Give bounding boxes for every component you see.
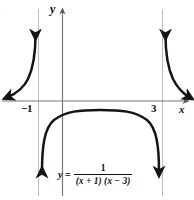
equation-denominator: (x + 1) (x − 3)	[74, 175, 133, 186]
curve-right-branch	[166, 35, 190, 97]
equation-numerator: 1	[95, 163, 112, 174]
curve-left-branch	[8, 35, 36, 97]
x-tick-label-neg1: −1	[21, 103, 32, 114]
rational-function-graph-figure: · y x −1 3 y = 1 (x +	[0, 0, 194, 200]
equation-relation: =	[65, 169, 71, 180]
x-axis-label: x	[179, 104, 185, 115]
y-axis-label: y	[50, 3, 55, 15]
equation-label: y = 1 (x + 1) (x − 3)	[58, 163, 132, 186]
x-tick-label-3: 3	[151, 103, 157, 114]
equation-fraction: 1 (x + 1) (x − 3)	[74, 163, 133, 186]
equation-lhs: y	[58, 169, 63, 180]
